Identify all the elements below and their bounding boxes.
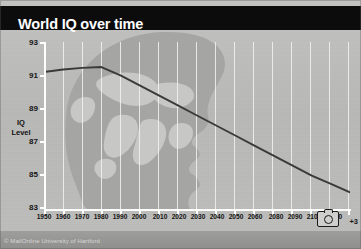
camera-icon[interactable]	[317, 211, 339, 227]
watermark-bar: © MailOnline University of Hartford	[0, 231, 361, 249]
y-tick-label: 89	[16, 105, 38, 113]
iq-line-series	[44, 42, 350, 209]
y-tick-label: 93	[16, 39, 38, 47]
y-tick-label: 87	[16, 138, 38, 146]
photo-count-badge[interactable]: +3	[349, 217, 358, 226]
chart-screenshot: World IQ over time	[0, 0, 361, 249]
y-tick-label: 91	[16, 72, 38, 80]
y-axis	[44, 42, 46, 211]
y-tick-label: 83	[16, 204, 38, 212]
title-banner: World IQ over time	[0, 6, 361, 30]
y-tick-label: 85	[16, 171, 38, 179]
y-axis-title-line1: IQ	[6, 118, 36, 127]
watermark-text: © MailOnline University of Hartford	[4, 238, 100, 244]
y-axis-title-line2: Level	[6, 128, 36, 137]
